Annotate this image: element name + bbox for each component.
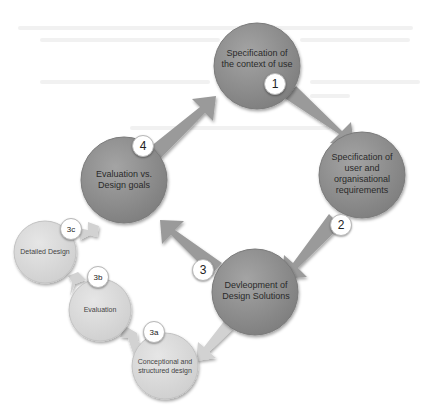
node-3-label: Devleopment of Design Solutions (218, 270, 294, 312)
node-4-label: Evaluation vs. Design goals (86, 164, 162, 196)
arrow-3-to-3a (196, 320, 233, 361)
badge-3: 3 (192, 259, 214, 281)
badge-3b: 3b (87, 266, 109, 288)
cycle-diagram (0, 0, 428, 420)
badge-2: 2 (330, 214, 352, 236)
badge-3c: 3c (60, 218, 82, 240)
node-3a-label: Conceptional and structured design (137, 348, 193, 386)
node-1-label: Specification of the context of use (219, 38, 295, 80)
node-3b-label: Evaluation (72, 302, 128, 318)
node-3c-label: Detailed Design (17, 240, 73, 264)
badge-4: 4 (132, 135, 154, 157)
badge-3a: 3a (143, 321, 165, 343)
badge-1: 1 (264, 73, 286, 95)
arrow-4-to-1 (150, 96, 216, 158)
node-2-label: Specification of user and organisational… (324, 148, 400, 200)
